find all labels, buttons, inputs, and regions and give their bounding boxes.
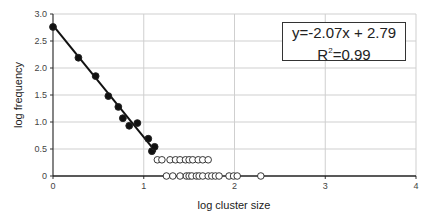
filled-data-point (75, 54, 82, 61)
open-data-point (169, 173, 176, 180)
y-tick-label: 0.5 (34, 144, 47, 154)
filled-data-point (134, 120, 141, 127)
data-points (50, 24, 265, 180)
x-tick-label: 2 (232, 181, 237, 191)
open-data-point (258, 173, 265, 180)
filled-data-point (50, 24, 57, 31)
open-data-point (234, 173, 241, 180)
regression-equation-box: y=-2.07x + 2.79 R2=0.99 (282, 22, 406, 61)
y-axis-label: log frequency (12, 61, 24, 128)
filled-data-point (151, 143, 158, 150)
open-data-point (163, 173, 170, 180)
regression-line (53, 25, 156, 151)
x-axis-label: log cluster size (198, 199, 271, 211)
x-tick-label: 3 (323, 181, 328, 191)
open-data-point (205, 157, 212, 164)
open-data-point (216, 173, 223, 180)
filled-data-point (92, 73, 99, 80)
equation-text: y=-2.07x + 2.79 (283, 24, 405, 42)
x-tick-label: 4 (413, 181, 418, 191)
filled-data-point (119, 115, 126, 122)
filled-data-point (126, 122, 133, 129)
open-data-point (159, 157, 166, 164)
filled-data-point (145, 135, 152, 142)
filled-data-point (115, 103, 122, 110)
y-tick-label: 1.0 (34, 117, 47, 127)
y-tick-label: 2.5 (34, 36, 47, 46)
filled-data-point (105, 93, 112, 100)
x-tick-label: 0 (50, 181, 55, 191)
y-tick-label: 2.0 (34, 63, 47, 73)
x-tick-label: 1 (141, 181, 146, 191)
r-squared-text: R2=0.99 (283, 42, 405, 64)
y-tick-label: 0 (42, 171, 47, 181)
open-data-point (177, 173, 184, 180)
y-tick-label: 3.0 (34, 9, 47, 19)
y-tick-label: 1.5 (34, 90, 47, 100)
